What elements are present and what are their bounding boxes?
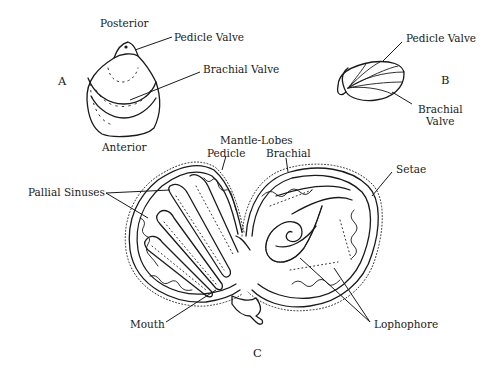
figure-b-shell — [338, 62, 404, 101]
figure-c-brachial-lobe — [242, 164, 382, 311]
label-c-setae: Setae — [396, 164, 426, 175]
label-panel-a: A — [58, 76, 66, 88]
leader-c-lophophore-1 — [300, 258, 370, 322]
label-a-posterior: Posterior — [100, 18, 149, 29]
label-a-pedicle-valve: Pedicle Valve — [174, 32, 244, 43]
leader-b-brachial-valve — [392, 92, 412, 104]
label-panel-b: B — [441, 75, 449, 87]
leader-c-brachial — [286, 158, 288, 172]
leader-b-pedicle-valve — [382, 42, 402, 62]
leader-a-brachial-valve — [130, 72, 200, 100]
leader-a-pedicle-valve — [135, 37, 172, 50]
label-b-pedicle-valve: Pedicle Valve — [406, 33, 476, 44]
label-a-anterior: Anterior — [102, 142, 147, 153]
label-a-brachial-valve: Brachial Valve — [203, 64, 279, 75]
label-b-valve: Valve — [426, 116, 454, 127]
figure-a-shell — [87, 42, 160, 136]
brachiopod-diagram: Posterior Pedicle Valve A Brachial Valve… — [0, 0, 504, 379]
label-panel-c: C — [253, 348, 262, 360]
leader-c-pallial-sinuses-1 — [106, 190, 170, 193]
label-c-mantle-lobes: Mantle-Lobes — [220, 135, 293, 146]
label-c-lophophore: Lophophore — [374, 319, 438, 330]
label-c-brachial: Brachial — [266, 148, 311, 159]
leader-c-setae — [372, 172, 392, 196]
label-b-brachial: Brachial — [418, 104, 463, 115]
label-c-pallial-sinuses: Pallial Sinuses — [28, 187, 105, 198]
label-c-mouth: Mouth — [130, 319, 165, 330]
label-c-pedicle: Pedicle — [207, 148, 245, 159]
figure-c-pedicle-lobe — [125, 162, 244, 306]
